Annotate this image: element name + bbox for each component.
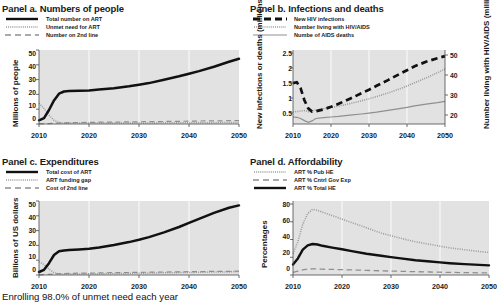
panel-c-ytick: 40: [16, 214, 36, 221]
panel-c-title: Panel c. Expenditures: [2, 156, 246, 167]
line-key-thick-solid-icon: [250, 184, 290, 192]
panel-a-xtick: 2010: [24, 131, 54, 140]
panel-b-xtick: 2040: [392, 131, 422, 140]
panel-c-ytick: 20: [16, 240, 36, 247]
panel-d-xtick: 2040: [425, 282, 455, 291]
panel-d-title: Panel d. Affordability: [250, 156, 496, 167]
panel-c-ytick: 50: [16, 201, 36, 208]
panel-a-ytick: 0: [16, 115, 36, 122]
panel-b: Panel b. Infections and deaths New HIV i…: [250, 3, 496, 153]
legend-item: ART % Pub HE: [250, 168, 496, 176]
legend-item: ART % Total HE: [250, 184, 496, 192]
panel-c-xtick: 2040: [174, 282, 204, 291]
legend-label: Numbe of AIDS deaths: [294, 32, 354, 38]
panel-a-ytick: 40: [16, 63, 36, 70]
panel-c-xtick: 2020: [74, 282, 104, 291]
panel-b-ytick: 1: [270, 95, 292, 102]
panel-d-ytick: 20: [270, 249, 290, 256]
panel-b-ytick: 0.5: [270, 110, 292, 117]
panel-b-xtick: 2020: [316, 131, 346, 140]
panel-b-ytick: 1.5: [270, 80, 292, 87]
panel-b-ylabel-text: New infections or deaths (millions): [255, 0, 264, 129]
legend-item: Numbe of AIDS deaths: [250, 31, 496, 39]
panel-c-ytick: 30: [16, 227, 36, 234]
legend-label: Cost of 2nd line: [46, 185, 88, 191]
panel-a-ytick: 50: [16, 50, 36, 57]
panel-a-ytick: 30: [16, 76, 36, 83]
legend-item: Cost of 2nd line: [2, 184, 246, 192]
panel-c: Panel c. Expenditures Total cost of ART …: [2, 156, 246, 296]
panel-d-xtick: 2030: [376, 282, 406, 291]
panel-c-xtick: 2010: [24, 282, 54, 291]
panel-a-ytick: 10: [16, 102, 36, 109]
legend-label: ART % Pub HE: [294, 169, 333, 175]
panel-d-xtick: 2050: [474, 282, 502, 291]
panel-a-xtick: 2020: [74, 131, 104, 140]
legend-label: ART % Cntrl Gov Exp: [294, 177, 351, 183]
panel-b-ytick: 2: [270, 65, 292, 72]
legend-item: Total number on ART: [2, 15, 246, 23]
line-key-dotted-icon: [2, 23, 42, 31]
line-key-dotted-icon: [250, 168, 290, 176]
line-key-dashed-icon: [2, 184, 42, 192]
legend-item: Number living with HIV/AIDS: [250, 23, 496, 31]
panel-a-title: Panel a. Numbers of people: [2, 3, 246, 14]
panel-d-xtick: 2020: [327, 282, 357, 291]
panel-c-ytick: 10: [16, 253, 36, 260]
legend-label: New HIV infections: [294, 16, 344, 22]
panel-b-xtick: 2030: [354, 131, 384, 140]
legend-item: New HIV infections: [250, 15, 496, 23]
panel-b-ytick-right: 50: [450, 52, 470, 59]
panel-b-xtick: 2050: [430, 131, 460, 140]
legend-label: Number on 2nd line: [46, 32, 98, 38]
legend-item: Number on 2nd line: [2, 31, 246, 39]
panel-d: Panel d. Affordability ART % Pub HE ART …: [250, 156, 496, 296]
panel-b-legend: New HIV infections Number living with HI…: [250, 15, 496, 39]
line-key-dotted-icon: [2, 176, 42, 184]
panel-a: Panel a. Numbers of people Total number …: [2, 3, 246, 153]
legend-item: Unmet need for ART: [2, 23, 246, 31]
legend-label: Total number on ART: [46, 16, 102, 22]
panel-b-ytick: 2.5: [270, 50, 292, 57]
panel-b-ytick-right: 20: [450, 112, 470, 119]
panel-c-ytick: 0: [16, 266, 36, 273]
panel-d-ylabel: Percentages: [260, 220, 269, 268]
legend-label: Number living with HIV/AIDS: [294, 24, 370, 30]
panel-c-legend: Total cost of ART ART funding gap Cost o…: [2, 168, 246, 192]
panel-d-plot: [293, 201, 489, 275]
panel-d-legend: ART % Pub HE ART % Cntrl Gov Exp ART % T…: [250, 168, 496, 192]
panel-d-ytick: 40: [270, 233, 290, 240]
panel-b-plot: [293, 50, 445, 124]
legend-item: ART funding gap: [2, 176, 246, 184]
panel-b-ytick-right: 40: [450, 72, 470, 79]
legend-label: Unmet need for ART: [46, 24, 100, 30]
panel-c-xtick: 2030: [124, 282, 154, 291]
panel-a-ytick: 20: [16, 89, 36, 96]
panel-d-ytick: 60: [270, 217, 290, 224]
legend-item: ART % Cntrl Gov Exp: [250, 176, 496, 184]
panel-b-ylabel: New infections or deaths (millions): [255, 0, 265, 129]
panel-d-xtick: 2010: [278, 282, 308, 291]
panel-d-ytick: 0: [270, 265, 290, 272]
panel-d-ytick: 80: [270, 201, 290, 208]
panel-a-xtick: 2030: [124, 131, 154, 140]
legend-label: ART funding gap: [46, 177, 91, 183]
panel-b-ylabel-right: Number living with HIV/AIDS (millions): [482, 0, 492, 129]
line-key-dashed-icon: [2, 31, 42, 39]
panel-b-xtick: 2010: [278, 131, 308, 140]
line-key-dashed-icon: [250, 176, 290, 184]
panel-b-title: Panel b. Infections and deaths: [250, 3, 496, 14]
panel-a-xtick: 2040: [174, 131, 204, 140]
line-key-thick-solid-icon: [2, 168, 42, 176]
figure-caption: Enrolling 98.0% of unmet need each year: [2, 291, 178, 302]
panel-b-ytick-right: 30: [450, 92, 470, 99]
panel-a-plot: [39, 50, 239, 124]
panel-b-ylabel-right-text: Number living with HIV/AIDS (millions): [482, 0, 491, 129]
legend-item: Total cost of ART: [2, 168, 246, 176]
legend-label: ART % Total HE: [294, 185, 336, 191]
panel-a-legend: Total number on ART Unmet need for ART N…: [2, 15, 246, 39]
line-key-thick-solid-icon: [2, 15, 42, 23]
legend-label: Total cost of ART: [46, 169, 92, 175]
panel-c-plot: [39, 201, 239, 275]
